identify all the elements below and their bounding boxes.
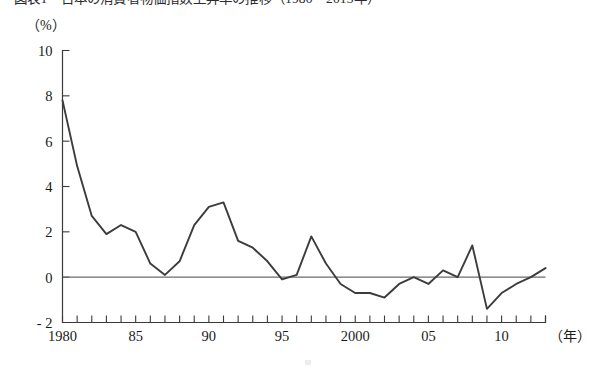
y-axis-tick-labels: - 20246810 [37,43,53,331]
x-axis-ticks [63,316,546,323]
x-tick-label: 10 [494,328,509,344]
scan-artifact [305,360,311,365]
x-tick-label: 85 [128,328,143,344]
x-tick-label: 95 [275,328,290,344]
x-axis-tick-labels: 198085909520000510 [48,328,509,344]
y-tick-label: 0 [45,270,52,286]
y-tick-label: 4 [45,179,53,195]
axis-frame [63,51,546,323]
x-tick-label: 05 [421,328,436,344]
y-tick-label: 8 [45,88,52,104]
y-tick-label: 10 [38,43,53,59]
line-chart-plot: - 20246810 198085909520000510 [0,0,595,377]
figure-root: 図表1 日本の消費者物価指数上昇率の推移（1980〜2013年） （%） （年）… [0,0,595,377]
x-tick-label: 90 [202,328,217,344]
y-tick-label: 6 [45,134,52,150]
x-tick-label: 2000 [341,328,370,344]
x-tick-label: 1980 [48,328,77,344]
y-tick-label: 2 [45,224,52,240]
